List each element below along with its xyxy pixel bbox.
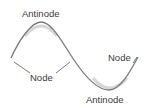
- node-label-left: Node: [30, 73, 53, 83]
- node-label-right: Node: [108, 53, 131, 63]
- node-leader-line-right: [56, 62, 70, 73]
- antinode-label-bottom: Antinode: [86, 95, 124, 105]
- antinode-label-top: Antinode: [22, 9, 60, 19]
- standing-wave-diagram: Antinode Node Node Antinode: [0, 0, 150, 108]
- node-leader-line-left: [14, 62, 30, 73]
